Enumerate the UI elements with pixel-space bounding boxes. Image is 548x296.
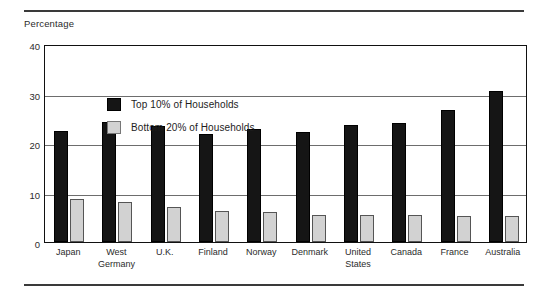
bar <box>312 215 326 242</box>
chart-legend: Top 10% of Households Bottom 20% of Hous… <box>107 98 255 144</box>
y-tick-label-40: 40 <box>29 41 40 52</box>
bar <box>215 211 229 242</box>
bar-group <box>392 46 422 242</box>
bar <box>263 212 277 242</box>
y-tick-label-20: 20 <box>29 140 40 151</box>
x-axis-label: Australia <box>479 247 527 259</box>
bar-group <box>102 46 132 242</box>
x-axis-label: U.K. <box>141 247 189 259</box>
bar <box>296 132 310 242</box>
bar-group <box>489 46 519 242</box>
y-tick-label-30: 30 <box>29 90 40 101</box>
figure-container: Percentage 010203040 Top 10% of Househol… <box>0 0 548 296</box>
plot-area: 010203040 Top 10% of Households Bottom 2… <box>44 45 527 243</box>
bar <box>392 123 406 242</box>
x-axis-label: Norway <box>237 247 285 259</box>
bar-group <box>296 46 326 242</box>
bar <box>70 199 84 242</box>
x-axis-label: France <box>430 247 478 259</box>
y-tick-label-10: 10 <box>29 189 40 200</box>
x-axis-label: Canada <box>382 247 430 259</box>
legend-item-bottom20: Bottom 20% of Households <box>107 121 255 134</box>
bar <box>167 207 181 242</box>
bar <box>360 215 374 242</box>
legend-swatch-icon-dark <box>107 98 121 111</box>
bar <box>489 91 503 242</box>
legend-label-top10: Top 10% of Households <box>131 99 239 110</box>
bar <box>54 131 68 242</box>
bar <box>457 216 471 242</box>
bar-group <box>441 46 471 242</box>
bar <box>408 215 422 242</box>
figure-top-rule <box>24 10 524 12</box>
y-tick-label-0: 0 <box>35 239 40 250</box>
x-axis-label: United States <box>334 247 382 270</box>
bar <box>441 110 455 242</box>
legend-label-bottom20: Bottom 20% of Households <box>131 122 255 133</box>
x-axis-label: Japan <box>44 247 92 259</box>
bar <box>505 216 519 242</box>
bar-group <box>54 46 84 242</box>
bar-group <box>151 46 181 242</box>
legend-item-top10: Top 10% of Households <box>107 98 255 111</box>
x-axis-label: Finland <box>189 247 237 259</box>
y-axis-title: Percentage <box>24 18 74 29</box>
bar-group <box>344 46 374 242</box>
x-axis-label: West Germany <box>92 247 140 270</box>
figure-bottom-rule <box>24 284 524 286</box>
x-axis-label: Denmark <box>286 247 334 259</box>
bars-layer <box>45 46 526 242</box>
x-axis-labels: JapanWest GermanyU.K.FinlandNorwayDenmar… <box>44 247 527 287</box>
bar-group <box>247 46 277 242</box>
bar-group <box>199 46 229 242</box>
bar <box>199 134 213 242</box>
bar <box>118 202 132 242</box>
legend-swatch-icon-light <box>107 121 121 134</box>
bar <box>247 129 261 242</box>
bar <box>344 125 358 242</box>
